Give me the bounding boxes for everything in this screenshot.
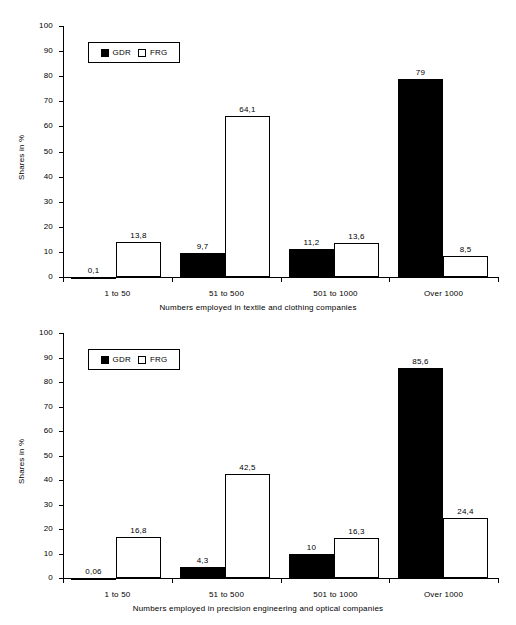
y-axis-tick-label: 100 [29, 329, 53, 337]
y-axis-tick-label: 80 [29, 72, 53, 80]
bar-value-label: 8,5 [433, 245, 498, 254]
x-axis-group-tick [389, 277, 390, 282]
y-axis-tick [59, 382, 64, 383]
bar-gdr-51-to-500 [180, 567, 225, 578]
y-axis-tick [59, 431, 64, 432]
y-axis-tick [59, 252, 64, 253]
bar-value-label: 64,1 [215, 105, 280, 114]
y-axis-tick-label: 20 [29, 223, 53, 231]
y-axis-tick-label: 100 [29, 22, 53, 30]
x-axis-category-label: 501 to 1000 [281, 289, 390, 298]
x-axis-title: Numbers employed in textile and clothing… [0, 303, 516, 312]
legend-swatch-gdr-icon [101, 356, 109, 364]
y-axis-tick [59, 407, 64, 408]
x-axis-end-tick [498, 277, 499, 282]
y-axis-tick-label: 30 [29, 501, 53, 509]
y-axis-title: Shares in % [17, 438, 26, 483]
bar-frg-501-to-1000 [334, 243, 379, 277]
bar-value-label: 42,5 [215, 463, 280, 472]
y-axis-tick [59, 358, 64, 359]
x-axis-category-label: Over 1000 [389, 289, 498, 298]
bar-gdr-51-to-500 [180, 253, 225, 277]
legend-entry-gdr[interactable]: GDR [101, 48, 131, 57]
bar-frg-51-to-500 [225, 116, 270, 277]
legend-label: FRG [150, 48, 168, 57]
x-axis-category-label: 501 to 1000 [281, 590, 390, 599]
y-axis-tick-label: 70 [29, 403, 53, 411]
y-axis-tick [59, 126, 64, 127]
chart-precision-optical: 0102030405060708090100Shares in %0,0616,… [0, 320, 516, 625]
chart-legend: GDRFRG [88, 42, 180, 63]
x-axis-group-tick [172, 578, 173, 583]
y-axis-tick [59, 202, 64, 203]
y-axis-tick [59, 333, 64, 334]
y-axis-tick [59, 26, 64, 27]
y-axis-tick [59, 101, 64, 102]
x-axis-group-tick [389, 578, 390, 583]
legend-label: GDR [113, 48, 131, 57]
x-axis-group-tick [281, 578, 282, 583]
legend-label: FRG [150, 355, 168, 364]
x-axis-group-tick [63, 277, 64, 282]
x-axis-group-tick [63, 578, 64, 583]
legend-swatch-frg-icon [138, 356, 146, 364]
x-axis-end-tick [498, 578, 499, 583]
bar-value-label: 79 [388, 68, 453, 77]
x-axis-group-tick [172, 277, 173, 282]
y-axis-tick [59, 505, 64, 506]
bar-gdr-1-to-50 [71, 578, 116, 580]
x-axis-group-tick [281, 277, 282, 282]
legend-entry-gdr[interactable]: GDR [101, 355, 131, 364]
y-axis-title: Shares in % [17, 134, 26, 179]
bar-frg-over-1000 [443, 518, 488, 578]
x-axis-category-label: 1 to 50 [63, 289, 172, 298]
y-axis-tick-label: 60 [29, 122, 53, 130]
bar-frg-1-to-50 [116, 242, 161, 277]
y-axis-tick-label: 50 [29, 148, 53, 156]
y-axis-tick [59, 177, 64, 178]
bar-gdr-501-to-1000 [289, 554, 334, 579]
y-axis-tick-label: 40 [29, 173, 53, 181]
y-axis-tick [59, 480, 64, 481]
bar-frg-over-1000 [443, 256, 488, 277]
y-axis-tick [59, 152, 64, 153]
y-axis-tick-label: 0 [29, 574, 53, 582]
y-axis-tick [59, 554, 64, 555]
y-axis-tick-label: 60 [29, 427, 53, 435]
bar-gdr-over-1000 [398, 368, 443, 578]
y-axis-tick [59, 76, 64, 77]
chart-legend: GDRFRG [88, 349, 180, 370]
x-axis-category-label: 1 to 50 [63, 590, 172, 599]
y-axis-tick-label: 10 [29, 550, 53, 558]
bar-value-label: 85,6 [388, 357, 453, 366]
y-axis-tick-label: 70 [29, 97, 53, 105]
bar-gdr-1-to-50 [71, 277, 116, 279]
y-axis-tick-label: 40 [29, 476, 53, 484]
y-axis-tick-label: 90 [29, 47, 53, 55]
bar-gdr-501-to-1000 [289, 249, 334, 277]
y-axis-tick [59, 456, 64, 457]
x-axis-category-label: Over 1000 [389, 590, 498, 599]
legend-label: GDR [113, 355, 131, 364]
legend-swatch-frg-icon [138, 49, 146, 57]
bar-frg-501-to-1000 [334, 538, 379, 578]
legend-swatch-gdr-icon [101, 49, 109, 57]
bar-frg-51-to-500 [225, 474, 270, 578]
y-axis-tick-label: 90 [29, 354, 53, 362]
chart-textile-clothing: 0102030405060708090100Shares in %0,113,8… [0, 0, 516, 320]
y-axis-tick-label: 30 [29, 198, 53, 206]
legend-entry-frg[interactable]: FRG [138, 48, 168, 57]
y-axis-tick-label: 80 [29, 378, 53, 386]
y-axis-tick-label: 50 [29, 452, 53, 460]
bar-frg-1-to-50 [116, 537, 161, 578]
bar-value-label: 16,3 [324, 527, 389, 536]
y-axis-tick-label: 0 [29, 273, 53, 281]
y-axis-tick [59, 51, 64, 52]
y-axis-tick-label: 10 [29, 248, 53, 256]
x-axis-category-label: 51 to 500 [172, 590, 281, 599]
y-axis-tick-label: 20 [29, 525, 53, 533]
x-axis-title: Numbers employed in precision engineerin… [0, 604, 516, 613]
y-axis-tick [59, 227, 64, 228]
y-axis-tick [59, 529, 64, 530]
legend-entry-frg[interactable]: FRG [138, 355, 168, 364]
